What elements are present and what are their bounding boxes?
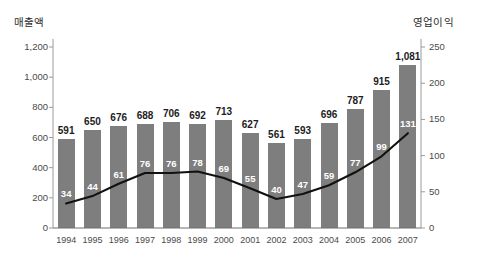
left-tick-1000: 1,000: [14, 71, 48, 82]
x-label-2007: 2007: [392, 235, 424, 245]
right-tick-0: 0: [429, 222, 463, 233]
bar-2000: [215, 120, 232, 228]
line-value-1996: 61: [105, 169, 133, 180]
line-value-2004: 59: [315, 170, 343, 181]
bar-1995: [84, 130, 101, 228]
left-tick-0: 0: [14, 222, 48, 233]
bar-value-2004: 696: [313, 109, 345, 120]
line-value-1998: 76: [157, 158, 185, 169]
bar-value-2005: 787: [339, 95, 371, 106]
left-tick-800: 800: [14, 101, 48, 112]
line-value-2007: 131: [394, 118, 422, 129]
line-value-1994: 34: [52, 188, 80, 199]
bar-1999: [189, 124, 206, 228]
line-value-2005: 77: [341, 157, 369, 168]
line-value-2001: 55: [236, 173, 264, 184]
bar-value-2000: 713: [208, 106, 240, 117]
left-tick-200: 200: [14, 192, 48, 203]
chart-canvas: 매출액 영업이익 02004006008001,0001,200 0501001…: [0, 0, 481, 259]
bar-2007: [399, 65, 416, 228]
left-tick-400: 400: [14, 162, 48, 173]
bar-1998: [163, 122, 180, 228]
line-value-2002: 40: [262, 184, 290, 195]
bar-value-2006: 915: [366, 76, 398, 87]
line-value-2003: 47: [289, 179, 317, 190]
bar-value-2003: 593: [287, 125, 319, 136]
left-tick-600: 600: [14, 132, 48, 143]
right-tick-200: 200: [429, 77, 463, 88]
line-value-1997: 76: [131, 158, 159, 169]
right-tick-100: 100: [429, 150, 463, 161]
line-value-1995: 44: [78, 181, 106, 192]
bar-1997: [137, 124, 154, 228]
right-tick-150: 150: [429, 113, 463, 124]
bar-2005: [347, 109, 364, 228]
bar-2006: [373, 90, 390, 228]
left-axis-title: 매출액: [14, 14, 45, 29]
line-value-1999: 78: [184, 157, 212, 168]
right-tick-50: 50: [429, 186, 463, 197]
left-tick-1200: 1,200: [14, 41, 48, 52]
right-tick-250: 250: [429, 41, 463, 52]
line-value-2006: 99: [368, 141, 396, 152]
line-value-2000: 69: [210, 163, 238, 174]
bar-1994: [58, 139, 75, 228]
bar-value-2007: 1,081: [392, 51, 424, 62]
right-axis-title: 영업이익: [413, 14, 454, 29]
